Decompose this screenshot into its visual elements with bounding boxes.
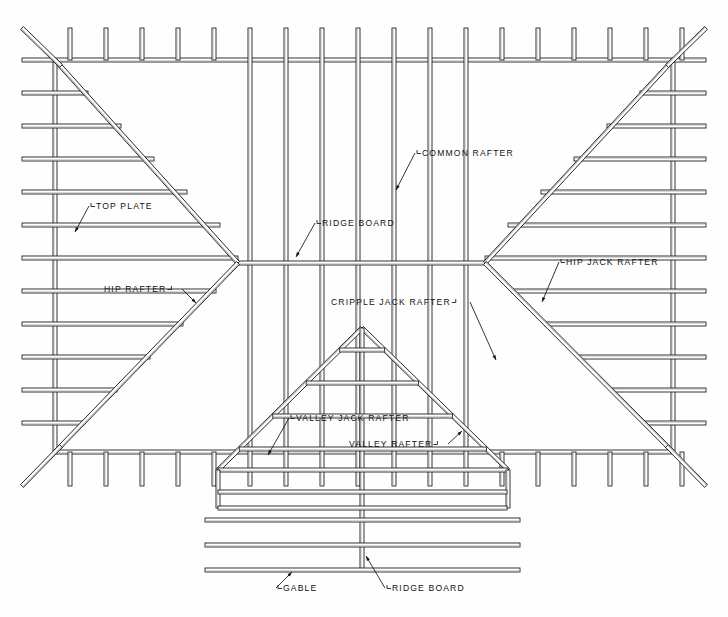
hip-jack-rafter-R-9 [578, 355, 706, 359]
callout-ridge-board-bottom: RIDGE BOARD [366, 556, 465, 593]
hip-jack-rafter-L-9 [22, 355, 150, 359]
common-rafter-lower-3 [176, 452, 180, 486]
hip-jack-rafter-R-3 [574, 157, 706, 161]
hip-jack-rafter-R-10 [611, 388, 706, 392]
callout-label-valley-jack-rafter: VALLEY JACK RAFTER [296, 413, 410, 423]
common-rafter-upper-2 [140, 28, 144, 60]
common-rafter-lower-16 [644, 452, 648, 486]
layer-callouts: TOP PLATEHIP RAFTERCOMMON RAFTERRIDGE BO… [75, 148, 659, 593]
callout-label-ridge-board-top: RIDGE BOARD [322, 218, 395, 228]
common-rafter-lower-2 [140, 452, 144, 486]
callout-label-valley-rafter: VALLEY RAFTER [349, 439, 432, 449]
callout-tick-top-plate [91, 203, 95, 207]
hip-rafter-top-left [54, 59, 240, 265]
callout-leader-ridge-board-top [296, 223, 315, 257]
callout-arrow-cripple-jack-rafter [493, 355, 496, 360]
valley-jack-rafter-1 [306, 381, 418, 385]
hip-jack-rafter-L-4 [22, 190, 187, 194]
hip-jack-rafter-R-5 [508, 223, 706, 227]
callout-hip-jack-rafter: HIP JACK RAFTER [542, 257, 659, 302]
gable-line-2 [205, 518, 520, 522]
common-rafter-upper-5 [248, 28, 252, 263]
callout-label-cripple-jack-rafter: CRIPPLE JACK RAFTER [331, 297, 451, 307]
common-rafter-lower-7 [320, 263, 324, 486]
dormer-base-plate [218, 468, 508, 472]
common-rafter-upper-1 [104, 28, 108, 60]
callout-arrow-common-rafter [396, 185, 400, 190]
callout-arrow-ridge-board-top [296, 252, 300, 257]
callout-leader-common-rafter [396, 153, 415, 190]
hip-overhang-bl [21, 445, 63, 488]
common-rafter-upper-15 [608, 28, 612, 60]
valley-jack-rafter-0 [340, 348, 385, 352]
callout-arrow-ridge-board-bottom [366, 556, 370, 561]
callout-arrow-hip-jack-rafter [542, 297, 545, 302]
common-rafter-lower-11 [464, 263, 468, 486]
common-rafter-upper-12 [500, 28, 504, 60]
common-rafter-upper-3 [176, 28, 180, 60]
common-rafter-lower-15 [608, 452, 612, 486]
callout-common-rafter: COMMON RAFTER [396, 148, 514, 190]
callout-label-hip-jack-rafter: HIP JACK RAFTER [566, 257, 659, 267]
callout-label-gable: GABLE [283, 583, 317, 593]
callout-gable: GABLE [276, 572, 317, 593]
common-rafter-upper-13 [536, 28, 540, 60]
common-rafter-upper-0 [68, 28, 72, 60]
common-rafter-upper-14 [572, 28, 576, 60]
hip-jack-rafter-L-6 [22, 256, 238, 260]
common-rafter-lower-4 [212, 452, 216, 486]
top-plate-upper [55, 58, 673, 62]
roof-framing-svg: TOP PLATEHIP RAFTERCOMMON RAFTERRIDGE BO… [0, 0, 728, 617]
common-rafter-upper-11 [464, 28, 468, 263]
hip-jack-rafter-L-5 [22, 223, 220, 227]
gable-line-0 [218, 490, 507, 494]
hip-jack-rafter-L-2 [22, 124, 121, 128]
callout-valley-rafter: VALLEY RAFTER [349, 431, 462, 449]
common-rafter-lower-5 [248, 263, 252, 486]
diagram-canvas: TOP PLATEHIP RAFTERCOMMON RAFTERRIDGE BO… [0, 0, 728, 617]
common-rafter-lower-6 [284, 263, 288, 486]
callout-label-common-rafter: COMMON RAFTER [422, 148, 514, 158]
ridge-board-main [238, 261, 485, 265]
callout-arrow-top-plate [75, 227, 79, 232]
hip-jack-rafter-R-7 [512, 289, 706, 293]
hip-jack-rafter-R-1 [640, 91, 706, 95]
hip-jack-rafter-R-8 [545, 322, 706, 326]
common-rafter-upper-10 [428, 28, 432, 263]
hip-jack-rafter-L-1 [22, 91, 88, 95]
common-rafter-upper-16 [644, 28, 648, 60]
callout-hip-rafter: HIP RAFTER [104, 284, 196, 303]
callout-ridge-board-top: RIDGE BOARD [296, 218, 395, 257]
hip-rafter-top-right [484, 59, 675, 265]
callout-label-hip-rafter: HIP RAFTER [104, 284, 166, 294]
hip-overhang-br [666, 445, 708, 488]
callout-label-top-plate: TOP PLATE [96, 201, 153, 211]
common-rafter-lower-1 [104, 452, 108, 486]
common-rafter-lower-13 [536, 452, 540, 486]
callout-tick-ridge-board-bottom [387, 585, 391, 589]
hip-jack-rafter-R-4 [541, 190, 706, 194]
hip-jack-rafter-R-2 [607, 124, 706, 128]
common-rafter-upper-6 [284, 28, 288, 263]
callout-leader-hip-jack-rafter [542, 262, 559, 302]
callout-leader-cripple-jack-rafter [470, 302, 496, 360]
gable-line-1 [218, 506, 507, 510]
callout-label-ridge-board-bottom: RIDGE BOARD [392, 583, 465, 593]
dormer-wall-right [506, 470, 510, 508]
callout-tick-common-rafter [417, 150, 421, 154]
common-rafter-upper-4 [212, 28, 216, 60]
dormer-wall-left [216, 470, 220, 508]
common-rafter-lower-0 [68, 452, 72, 486]
hip-jack-rafter-L-3 [22, 157, 154, 161]
callout-tick-cripple-jack-rafter [452, 299, 456, 303]
layer-ridge-boards [238, 261, 485, 265]
hip-jack-rafter-L-10 [22, 388, 117, 392]
hip-jack-rafter-L-8 [22, 322, 183, 326]
gable-line-3 [205, 543, 520, 547]
common-rafter-lower-14 [572, 452, 576, 486]
hip-jack-rafter-L-11 [22, 421, 84, 425]
hip-jack-rafter-R-11 [644, 421, 706, 425]
gable-line-4 [205, 568, 520, 572]
callout-tick-valley-rafter [433, 441, 437, 445]
